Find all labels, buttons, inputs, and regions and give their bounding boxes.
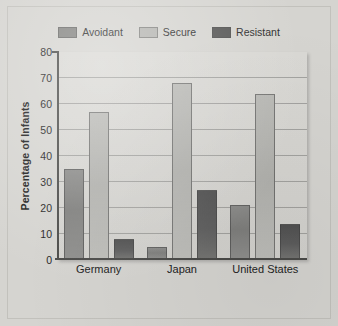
x-axis-line xyxy=(55,258,307,260)
plot-wrapper: 01020304050607080 xyxy=(57,52,307,260)
plot-area xyxy=(57,52,307,260)
x-axis-tick-labels: GermanyJapanUnited States xyxy=(57,264,307,280)
y-tick-label: 30 xyxy=(40,177,52,188)
y-tick-label: 0 xyxy=(46,255,52,266)
bar-secure-united-states xyxy=(255,94,275,260)
legend-swatch-resistant xyxy=(212,27,231,38)
bar-avoidant-united-states xyxy=(230,205,250,260)
y-tick-label: 80 xyxy=(40,47,52,58)
legend-swatch-secure xyxy=(139,27,158,38)
figure-container: Avoidant Secure Resistant Percentage of … xyxy=(0,0,338,326)
bar-secure-japan xyxy=(172,83,192,260)
y-tick-label: 40 xyxy=(40,151,52,162)
legend-label-resistant: Resistant xyxy=(236,27,280,38)
legend-item-avoidant: Avoidant xyxy=(58,27,123,38)
y-tick-label: 20 xyxy=(40,203,52,214)
legend-swatch-avoidant xyxy=(58,27,77,38)
legend-label-avoidant: Avoidant xyxy=(82,27,123,38)
y-tick-label: 60 xyxy=(40,99,52,110)
y-axis-title: Percentage of Infants xyxy=(18,52,32,260)
bar-resistant-japan xyxy=(197,190,217,260)
legend-item-resistant: Resistant xyxy=(212,27,280,38)
x-tick-label: United States xyxy=(232,264,298,275)
y-tick-label: 50 xyxy=(40,125,52,136)
bar-avoidant-germany xyxy=(64,169,84,260)
y-tick-label: 10 xyxy=(40,229,52,240)
y-tick-label: 70 xyxy=(40,73,52,84)
chart-legend: Avoidant Secure Resistant xyxy=(0,27,338,38)
bar-group-container xyxy=(57,52,307,260)
bar-resistant-united-states xyxy=(280,224,300,260)
x-tick-label: Germany xyxy=(76,264,121,275)
bar-resistant-germany xyxy=(114,239,134,260)
bar-secure-germany xyxy=(89,112,109,260)
legend-label-secure: Secure xyxy=(163,27,196,38)
legend-item-secure: Secure xyxy=(139,27,196,38)
y-axis-line xyxy=(57,51,59,260)
y-axis-tick-labels: 01020304050607080 xyxy=(47,52,57,260)
x-tick-label: Japan xyxy=(167,264,197,275)
